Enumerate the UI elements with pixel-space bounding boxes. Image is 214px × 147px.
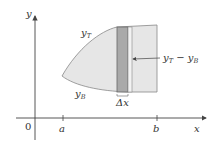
y-axis-label: y	[25, 8, 32, 19]
strip-height-label: yT − yB	[162, 52, 198, 65]
a-label: a	[59, 123, 65, 134]
area-between-curves-diagram: y x 0 a b yT yB yT − yB Δx	[0, 0, 214, 147]
x-axis-label: x	[194, 123, 200, 134]
bottom-curve-label: yB	[74, 88, 86, 101]
top-curve-label: yT	[80, 27, 92, 40]
width-bracket	[117, 94, 128, 96]
strip-width-label: Δx	[115, 97, 129, 108]
strip-edge	[128, 27, 132, 92]
approximating-strip	[117, 27, 128, 92]
origin-label: 0	[25, 121, 31, 132]
b-label: b	[153, 123, 159, 134]
